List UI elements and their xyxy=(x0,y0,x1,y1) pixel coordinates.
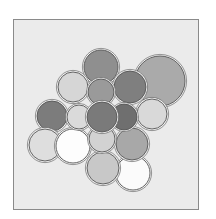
c-white-left xyxy=(54,127,91,164)
diagram-stage xyxy=(0,0,216,219)
c-right-bottom xyxy=(114,126,149,161)
c-center xyxy=(85,100,118,133)
c-upper-right xyxy=(112,69,147,104)
c-bottom xyxy=(85,150,120,185)
c-right xyxy=(135,97,168,130)
c-upper-left xyxy=(56,70,89,103)
c-left xyxy=(35,99,68,132)
circle-cluster xyxy=(0,0,216,219)
